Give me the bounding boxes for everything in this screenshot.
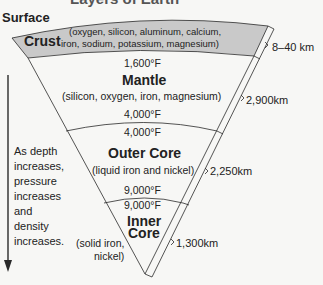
outer-core-temp-bottom: 9,000°F bbox=[124, 185, 161, 196]
inner-core-composition-1: (solid iron, bbox=[76, 238, 124, 249]
mantle-thickness: 2,900km bbox=[246, 95, 288, 106]
inner-core-label-2: Core bbox=[128, 226, 160, 240]
outer-core-thickness: 2,250km bbox=[210, 166, 252, 177]
outer-core-brace bbox=[205, 168, 208, 174]
mantle-composition: (silicon, oxygen, iron, magnesium) bbox=[62, 91, 221, 102]
outer-core-label: Outer Core bbox=[108, 146, 181, 160]
mantle-temp: 4,000°F bbox=[124, 109, 161, 120]
inner-core-brace bbox=[171, 239, 174, 245]
crust-thickness: 8–40 km bbox=[272, 42, 314, 53]
depth-note: As depth increases, pressure increases a… bbox=[14, 144, 64, 249]
mantle-brace bbox=[241, 95, 244, 101]
surface-label: Surface bbox=[2, 11, 50, 24]
crust-label: Crust bbox=[24, 34, 61, 48]
outer-core-temp-top: 4,000°F bbox=[124, 127, 161, 138]
crust-composition-2: iron, sodium, potassium, magnesium) bbox=[61, 39, 219, 49]
crust-temp: 1,600°F bbox=[124, 58, 161, 69]
inner-core-thickness: 1,300km bbox=[176, 238, 218, 249]
crust-composition-1: (oxygen, silicon, aluminum, calcium, bbox=[69, 27, 221, 37]
diagram-title: Layers of Earth bbox=[70, 0, 179, 6]
arrow-head-icon bbox=[4, 260, 12, 272]
mantle-label: Mantle bbox=[122, 73, 166, 87]
inner-core-temp: 9,000°F bbox=[124, 200, 161, 211]
inner-core-composition-2: nickel) bbox=[94, 251, 124, 262]
outer-core-composition: (liquid iron and nickel) bbox=[92, 165, 194, 176]
